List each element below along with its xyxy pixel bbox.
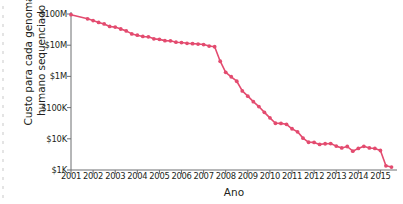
data-point bbox=[235, 79, 239, 83]
data-point bbox=[367, 146, 371, 150]
cost-series-markers bbox=[69, 13, 393, 169]
data-point bbox=[240, 89, 244, 93]
data-point bbox=[180, 41, 184, 45]
data-point bbox=[113, 25, 117, 29]
data-point bbox=[224, 70, 228, 74]
data-point bbox=[163, 39, 167, 43]
data-point bbox=[362, 144, 366, 148]
data-point bbox=[257, 105, 261, 109]
data-point bbox=[207, 44, 211, 48]
data-point bbox=[356, 147, 360, 151]
data-point bbox=[69, 13, 73, 17]
data-point bbox=[86, 17, 90, 21]
data-point bbox=[296, 130, 300, 134]
x-axis-title: Ano bbox=[71, 186, 397, 198]
data-point bbox=[384, 164, 388, 168]
data-point bbox=[340, 146, 344, 150]
data-point bbox=[185, 41, 189, 45]
data-point bbox=[119, 27, 123, 31]
x-tick-label-2015: 2015 bbox=[365, 171, 395, 181]
data-point bbox=[108, 25, 112, 29]
data-point bbox=[373, 147, 377, 151]
data-point bbox=[102, 22, 106, 26]
data-point bbox=[345, 145, 349, 149]
data-point bbox=[158, 37, 162, 41]
data-point bbox=[97, 21, 101, 25]
data-point bbox=[274, 121, 278, 125]
data-point bbox=[329, 142, 333, 146]
data-point bbox=[290, 127, 294, 131]
cost-series-line bbox=[71, 15, 391, 167]
y-tick-label-1M: $1M bbox=[25, 71, 67, 81]
data-point bbox=[91, 19, 95, 23]
data-point bbox=[124, 29, 128, 33]
page-scan-artifact bbox=[2, 6, 4, 198]
y-tick-label-10M: $10M bbox=[25, 40, 67, 50]
data-point bbox=[146, 35, 150, 39]
data-point bbox=[130, 32, 134, 36]
data-point bbox=[379, 149, 383, 153]
data-point bbox=[246, 94, 250, 98]
data-point bbox=[262, 110, 266, 114]
data-point bbox=[268, 116, 272, 120]
data-point bbox=[196, 42, 200, 46]
data-point bbox=[312, 141, 316, 145]
data-point bbox=[334, 144, 338, 148]
data-point bbox=[390, 165, 394, 169]
data-point bbox=[169, 39, 173, 43]
data-point bbox=[191, 42, 195, 46]
data-point bbox=[218, 59, 222, 63]
data-point bbox=[307, 140, 311, 144]
data-point bbox=[174, 40, 178, 44]
data-point bbox=[213, 45, 217, 49]
data-point bbox=[251, 100, 255, 104]
data-point bbox=[202, 43, 206, 47]
y-tick-label-100M: $100M bbox=[25, 9, 67, 19]
y-tick-label-10K: $10K bbox=[25, 134, 67, 144]
data-point bbox=[285, 122, 289, 126]
data-point bbox=[318, 142, 322, 146]
data-point bbox=[135, 33, 139, 37]
data-point bbox=[351, 149, 355, 153]
data-point bbox=[323, 142, 327, 146]
y-tick-label-100K: $100K bbox=[25, 103, 67, 113]
data-point bbox=[301, 136, 305, 140]
data-point bbox=[229, 75, 233, 79]
data-point bbox=[152, 37, 156, 41]
cost-per-genome-chart: Custo para cada genoma humano sequenciad… bbox=[0, 0, 403, 204]
data-point bbox=[141, 35, 145, 39]
y-tick-marks bbox=[67, 14, 71, 170]
data-point bbox=[279, 122, 283, 126]
